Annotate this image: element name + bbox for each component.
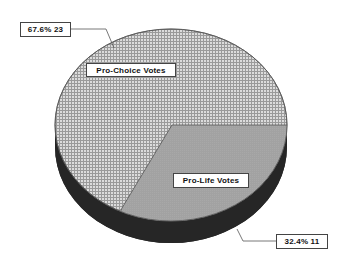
data-label-pro-choice: 67.6% 23 bbox=[20, 22, 71, 37]
pie-chart bbox=[0, 0, 340, 262]
slice-label-pro-life: Pro-Life Votes bbox=[173, 173, 249, 188]
data-label-pro-life: 32.4% 11 bbox=[276, 234, 328, 249]
leader-line-pro-life bbox=[237, 229, 276, 241]
slice-label-pro-choice: Pro-Choice Votes bbox=[86, 63, 176, 77]
